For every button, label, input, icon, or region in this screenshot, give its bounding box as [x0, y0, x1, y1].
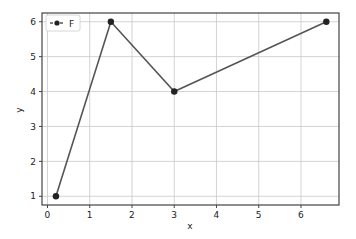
y-tick-label: 5 [30, 52, 36, 62]
y-axis-ticks: 123456 [30, 17, 42, 202]
data-point-marker [108, 19, 114, 25]
series-markers-F [53, 19, 330, 200]
axes-frame [42, 13, 339, 205]
x-tick-label: 5 [256, 210, 262, 220]
x-tick-label: 4 [214, 210, 220, 220]
series-line-F [56, 22, 326, 197]
chart-canvas: 0123456 123456 F x y [0, 0, 356, 239]
x-tick-label: 0 [45, 210, 51, 220]
x-tick-label: 6 [298, 210, 304, 220]
x-tick-label: 1 [87, 210, 93, 220]
data-point-marker [323, 19, 329, 25]
y-tick-label: 4 [30, 87, 36, 97]
data-point-marker [53, 193, 59, 199]
y-tick-label: 1 [30, 191, 36, 201]
x-axis-ticks: 0123456 [45, 205, 304, 220]
x-tick-label: 3 [171, 210, 177, 220]
legend: F [46, 15, 80, 31]
grid-lines [42, 13, 339, 205]
y-tick-label: 2 [30, 157, 36, 167]
legend-marker-icon [54, 20, 59, 25]
x-tick-label: 2 [129, 210, 135, 220]
x-axis-label: x [187, 221, 193, 231]
y-axis-label: y [14, 107, 24, 113]
y-tick-label: 6 [30, 17, 36, 27]
data-point-marker [171, 88, 177, 94]
legend-label: F [69, 19, 74, 29]
y-tick-label: 3 [30, 122, 36, 132]
